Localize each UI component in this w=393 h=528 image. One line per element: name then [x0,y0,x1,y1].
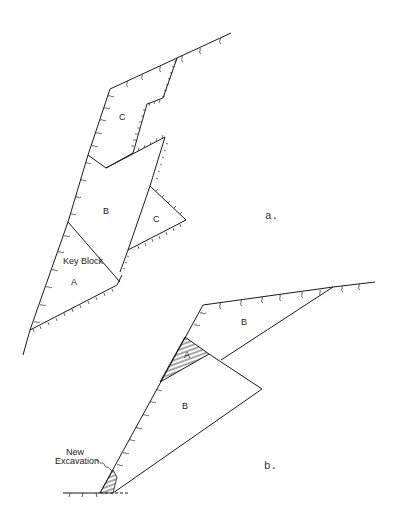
panel-b: B A B New Excavation b. [55,282,375,497]
block-b-boundary [106,137,165,272]
label-block-a-b: A [184,350,190,360]
block-b-upper-base [221,287,333,360]
rock-joint-texture-a [33,60,182,332]
excavation-face-b [100,305,203,493]
label-block-b-upper: B [241,317,247,327]
label-key-block: Key Block [63,256,104,266]
key-block-diagram: C B C Key Block A a. B A B New Excavatio… [0,0,393,528]
block-b-lower-boundary [113,354,262,493]
excavation-face-a [23,89,110,355]
label-block-b-lower: B [182,401,188,411]
label-block-c-upper: C [119,112,126,122]
label-block-b: B [103,206,109,216]
caption-a: a. [265,210,278,222]
annotation-excavation: Excavation [55,456,99,466]
ground-surface-b [203,282,375,305]
panel-a: C B C Key Block A a. [23,33,278,355]
key-block-boundary [68,222,120,282]
caption-b: b. [264,460,277,472]
label-block-a: A [71,277,77,287]
ground-surface-a [110,33,231,89]
block-c-upper-boundary [88,58,177,168]
surface-ticks-b [69,284,360,497]
label-block-c-right: C [153,214,160,224]
new-excavation-hatched [100,470,117,493]
